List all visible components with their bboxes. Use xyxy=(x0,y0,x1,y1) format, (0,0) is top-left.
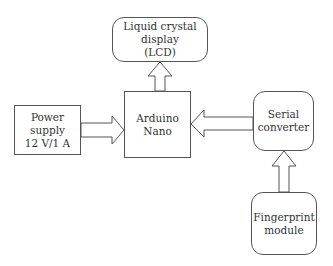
arrow-fingerprint-to-serial xyxy=(272,151,296,192)
arduino-nano-block: Arduino Nano xyxy=(124,91,191,158)
power-supply-label: Power supply 12 V/1 A xyxy=(25,111,70,150)
fingerprint-module-label: Fingerprint module xyxy=(253,211,314,237)
arrow-nano-to-lcd xyxy=(148,62,172,91)
power-supply-block: Power supply 12 V/1 A xyxy=(14,105,81,155)
serial-converter-label: Serial converter xyxy=(258,108,310,134)
lcd-block: Liquid crystal display (LCD) xyxy=(112,17,208,62)
arrow-serial-to-nano xyxy=(191,110,253,137)
arrow-power-to-nano xyxy=(81,116,124,144)
lcd-label: Liquid crystal display (LCD) xyxy=(123,20,196,59)
fingerprint-module-block: Fingerprint module xyxy=(251,192,317,255)
arduino-nano-label: Arduino Nano xyxy=(136,112,179,138)
serial-converter-block: Serial converter xyxy=(253,91,314,151)
